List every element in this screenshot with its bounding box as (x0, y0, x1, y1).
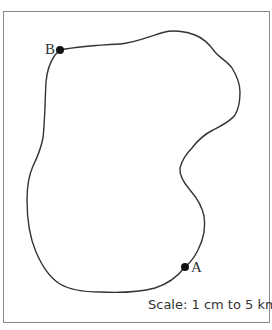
point-a-marker (181, 263, 189, 271)
point-b-marker (56, 46, 64, 54)
point-a-label: A (191, 260, 202, 275)
scale-caption: Scale: 1 cm to 5 km (148, 297, 272, 312)
island-outline (0, 0, 272, 330)
point-b-label: B (45, 42, 55, 57)
coastline-path (27, 31, 240, 292)
